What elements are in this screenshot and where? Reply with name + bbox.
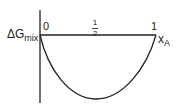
x-tick-1: 1 bbox=[151, 21, 157, 32]
y-axis-label-sub: mix bbox=[24, 33, 38, 43]
diagram-canvas bbox=[0, 0, 179, 111]
x-tick-half: 1 2 bbox=[90, 19, 100, 38]
x-axis-label: xA bbox=[158, 33, 170, 45]
y-axis-label-main: ΔG bbox=[7, 27, 24, 41]
gibbs-mixing-curve bbox=[40, 35, 156, 99]
y-axis-label: ΔGmix bbox=[7, 28, 38, 40]
x-tick-0: 0 bbox=[43, 21, 49, 32]
x-axis-label-sub: A bbox=[164, 38, 170, 48]
x-tick-half-denominator: 2 bbox=[90, 30, 100, 38]
x-tick-half-numerator: 1 bbox=[90, 19, 100, 27]
